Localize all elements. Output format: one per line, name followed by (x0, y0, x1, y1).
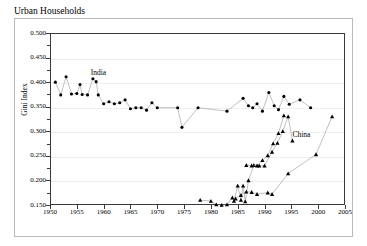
x-axis-tick-label: 1975 (169, 209, 199, 216)
x-axis-tick-label: 1950 (35, 209, 65, 216)
y-axis-tick-label: 0.200 (30, 177, 46, 184)
y-axis-tick-mark (46, 82, 50, 83)
x-axis-tick-mark (318, 205, 319, 209)
y-axis-minor-tick-mark (47, 119, 50, 120)
y-axis-minor-tick-mark (47, 94, 50, 95)
gridline (51, 157, 344, 158)
gridline (51, 108, 344, 109)
y-axis-tick-mark (46, 107, 50, 108)
y-axis-tick-label: 0.500 (30, 30, 46, 37)
gridline (51, 83, 344, 84)
gridline (51, 181, 344, 182)
y-axis-tick-label: 0.250 (30, 152, 46, 159)
y-axis-minor-tick-mark (47, 144, 50, 145)
y-axis-title: Gini Index (20, 70, 29, 130)
y-axis-tick-label: 0.300 (30, 128, 46, 135)
gridline (51, 59, 344, 60)
x-axis-tick-mark (345, 205, 346, 209)
y-axis-minor-tick-mark (47, 193, 50, 194)
x-axis-tick-label: 1995 (276, 209, 306, 216)
series-label-india: India (91, 69, 106, 77)
plot-area (50, 33, 345, 205)
x-axis-tick-mark (184, 205, 185, 209)
x-axis-tick-mark (77, 205, 78, 209)
x-axis-tick-label: 1960 (89, 209, 119, 216)
y-axis-tick-mark (46, 33, 50, 34)
x-axis-tick-mark (130, 205, 131, 209)
x-axis-tick-mark (238, 205, 239, 209)
x-axis-tick-mark (211, 205, 212, 209)
y-axis-tick-mark (46, 156, 50, 157)
x-axis-tick-mark (291, 205, 292, 209)
y-axis-minor-tick-mark (47, 45, 50, 46)
gridlines (51, 34, 344, 204)
x-axis-tick-label: 1980 (196, 209, 226, 216)
y-axis-tick-mark (46, 180, 50, 181)
y-axis-minor-tick-mark (47, 70, 50, 71)
chart-figure: Urban Households 0.1500.2000.2500.3000.3… (0, 0, 367, 246)
x-axis-tick-mark (157, 205, 158, 209)
y-axis-tick-label: 0.450 (30, 54, 46, 61)
x-axis-tick-label: 1965 (115, 209, 145, 216)
y-axis-minor-tick-mark (47, 168, 50, 169)
series-label-china: China (292, 131, 310, 139)
x-axis-tick-label: 2000 (303, 209, 333, 216)
x-axis-tick-mark (265, 205, 266, 209)
y-axis-tick-mark (46, 58, 50, 59)
y-axis-tick-mark (46, 131, 50, 132)
x-axis-tick-label: 1990 (250, 209, 280, 216)
x-axis-tick-mark (50, 205, 51, 209)
x-axis-tick-mark (104, 205, 105, 209)
x-axis-tick-label: 1955 (62, 209, 92, 216)
x-axis-tick-label: 2005 (330, 209, 360, 216)
x-axis-tick-label: 1970 (142, 209, 172, 216)
x-axis-tick-label: 1985 (223, 209, 253, 216)
y-axis-tick-label: 0.400 (30, 79, 46, 86)
y-axis-tick-label: 0.350 (30, 103, 46, 110)
